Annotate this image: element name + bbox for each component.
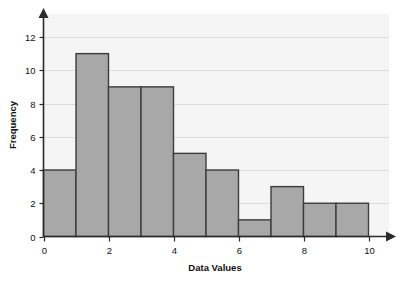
y-tick-label: 10 — [25, 65, 36, 76]
x-tick-label: 8 — [302, 245, 307, 256]
x-tick-label: 4 — [172, 245, 177, 256]
y-tick-label: 8 — [30, 99, 35, 110]
x-tick-label: 2 — [107, 245, 112, 256]
y-axis-label: Frequency — [7, 100, 18, 149]
histogram-bar — [206, 170, 239, 237]
y-ticks-group: 024681012 — [25, 32, 44, 243]
x-ticks-group: 0246810 — [42, 237, 375, 256]
histogram-bar — [336, 203, 369, 236]
histogram-svg: 0246810 024681012 Data Values Frequency — [0, 0, 401, 284]
y-tick-label: 0 — [30, 232, 35, 243]
x-tick-label: 10 — [364, 245, 375, 256]
x-tick-label: 6 — [237, 245, 242, 256]
histogram-bar — [271, 187, 304, 237]
y-tick-label: 2 — [30, 198, 35, 209]
histogram-bar — [304, 203, 337, 236]
histogram-bar — [239, 220, 272, 237]
y-tick-label: 4 — [30, 165, 35, 176]
y-axis-arrowhead — [39, 8, 49, 18]
x-tick-label: 0 — [42, 245, 47, 256]
x-axis-arrowhead — [386, 232, 396, 242]
histogram-bar — [141, 87, 174, 237]
histogram-chart: 0246810 024681012 Data Values Frequency — [0, 0, 401, 284]
histogram-bar — [44, 170, 77, 237]
histogram-bar — [109, 87, 142, 237]
histogram-bar — [174, 153, 207, 236]
y-tick-label: 6 — [30, 132, 35, 143]
histogram-bar — [76, 54, 109, 237]
x-axis-label: Data Values — [188, 262, 241, 273]
y-tick-label: 12 — [25, 32, 36, 43]
